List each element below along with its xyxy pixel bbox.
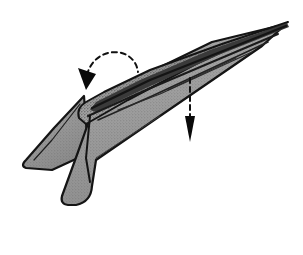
origami-diagram-canvas: Folded paper model step diagram Grayscal… xyxy=(0,0,303,255)
origami-diagram-figure: Folded paper model step diagram Grayscal… xyxy=(0,0,303,255)
